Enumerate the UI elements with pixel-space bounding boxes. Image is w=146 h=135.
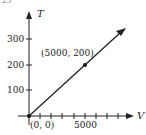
y-tick-200: 200 [7,61,24,70]
y-tick-300: 300 [7,35,24,44]
x-axis-arrow-icon [126,113,134,119]
x-tick-5000: 5000 [74,121,97,130]
chart: 25 T V 300 20 [0,0,146,135]
point-label: (5000, 200) [41,49,94,58]
y-tick-100: 100 [7,86,24,95]
data-point [83,63,87,67]
y-axis-arrow-icon [26,11,32,19]
data-line [29,32,121,116]
x-axis-label: V [137,111,144,121]
origin-label: (0, 0) [30,121,54,130]
origin-point [27,114,31,118]
y-axis-label: T [37,9,44,19]
